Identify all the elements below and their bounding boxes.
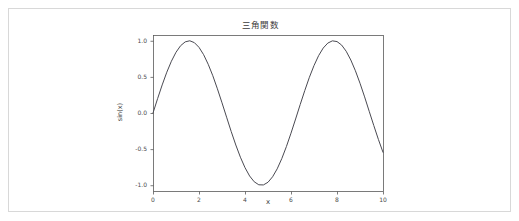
y-tick-label: -1.0 — [125, 181, 147, 188]
y-tick-label: -0.5 — [125, 145, 147, 152]
figure-frame: 三角関数 0246810-1.0-0.50.00.51.0 sin(x) x — [8, 8, 511, 212]
tick-marks — [151, 41, 384, 194]
y-axis-label: sin(x) — [116, 92, 124, 132]
axes-spines — [154, 36, 384, 192]
chart-plot-area — [9, 9, 512, 213]
y-tick-label: 0.5 — [125, 73, 147, 80]
y-tick-label: 0.0 — [125, 109, 147, 116]
y-tick-label: 1.0 — [125, 37, 147, 44]
data-line-sin — [153, 41, 383, 185]
x-axis-label: x — [153, 198, 383, 206]
axes-box — [154, 36, 384, 192]
